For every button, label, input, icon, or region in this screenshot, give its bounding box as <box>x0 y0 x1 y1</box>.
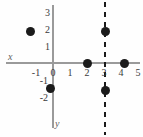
x-tick-label-2: 2 <box>80 68 94 78</box>
y-tick-label-2: 2 <box>38 25 50 35</box>
x-tick-label-5: 5 <box>131 68 143 78</box>
data-point <box>46 84 55 93</box>
data-point <box>101 27 110 36</box>
x-tick-label-0: 0 <box>46 68 60 78</box>
y-tick-label-3: 3 <box>38 8 50 18</box>
data-point <box>26 27 35 36</box>
data-point <box>120 59 129 68</box>
x-axis-label: x <box>8 52 12 62</box>
y-tick-label-neg2: -2 <box>36 93 48 103</box>
coordinate-plane-figure: x y -1 0 1 2 3 4 5 3 2 1 -1 -2 <box>0 0 143 137</box>
y-tick-label-1: 1 <box>38 42 50 52</box>
x-tick-label-3: 3 <box>97 68 111 78</box>
data-point <box>101 86 110 95</box>
x-tick-label-4: 4 <box>114 68 128 78</box>
y-axis-label: y <box>55 119 59 129</box>
data-point <box>83 59 92 68</box>
x-tick-label-1: 1 <box>63 68 77 78</box>
